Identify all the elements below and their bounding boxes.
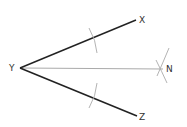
ray-yz [20, 68, 137, 116]
arc-mark-yx [89, 28, 97, 53]
arc-mark-yz [89, 83, 97, 108]
ray-yx [20, 20, 136, 68]
angle-bisector-diagram: Y X Z N [0, 0, 187, 127]
label-z: Z [139, 112, 145, 122]
bisector-yn [20, 68, 163, 69]
label-y: Y [8, 63, 15, 73]
label-x: X [139, 15, 145, 25]
label-n: N [166, 64, 173, 74]
